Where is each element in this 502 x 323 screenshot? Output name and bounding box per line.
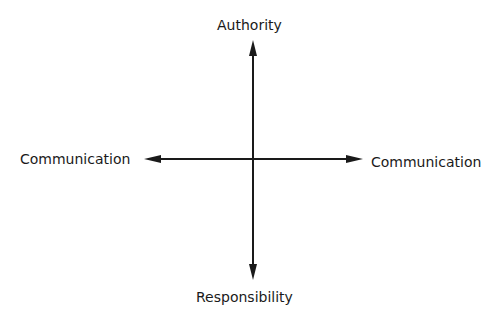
arrow-right-icon <box>346 155 363 163</box>
label-authority: Authority <box>217 18 282 32</box>
diagram-canvas: Authority Communication Communication Re… <box>0 0 502 323</box>
label-responsibility: Responsibility <box>196 290 293 304</box>
arrow-down-icon <box>249 264 257 280</box>
label-communication-left: Communication <box>20 152 130 166</box>
label-communication-right: Communication <box>371 155 481 169</box>
arrow-left-icon <box>144 155 161 163</box>
arrow-up-icon <box>249 40 257 56</box>
